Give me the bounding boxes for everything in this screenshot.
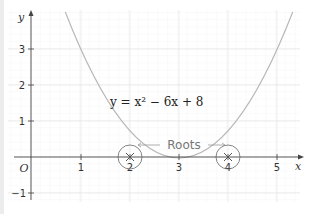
equation-label: y = x² − 6x + 8 xyxy=(109,95,203,109)
x-tick-1: 1 xyxy=(78,162,84,173)
chart: 1 2 3 4 5 3 2 1 −1 O x y y = x² − 6x + 8… xyxy=(0,0,316,214)
x-tick-4: 4 xyxy=(225,162,231,173)
x-axis-label: x xyxy=(295,160,302,173)
y-tick-2: 2 xyxy=(19,80,25,91)
x-tick-3: 3 xyxy=(176,162,182,173)
y-tick-1: 1 xyxy=(19,116,25,127)
x-tick-2: 2 xyxy=(127,162,133,173)
y-tick-3: 3 xyxy=(19,44,25,55)
roots-label: Roots xyxy=(167,138,200,152)
y-tick-minus-1: −1 xyxy=(11,188,26,199)
origin-label: O xyxy=(19,162,28,175)
y-axis-label: y xyxy=(17,11,25,24)
x-tick-5: 5 xyxy=(274,162,280,173)
